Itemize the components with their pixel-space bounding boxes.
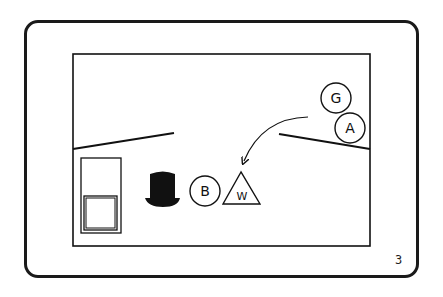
character-a: A [335, 113, 365, 143]
character-g: G [321, 83, 351, 113]
movement-arrow [244, 117, 308, 161]
top-hat-icon [145, 172, 180, 208]
page-number: 3 [395, 253, 402, 267]
character-w: W [223, 172, 260, 204]
scene-canvas: B W G A [0, 0, 443, 297]
character-g-label: G [331, 90, 342, 106]
character-b-label: B [200, 183, 210, 199]
door [81, 158, 121, 233]
character-w-label: W [237, 190, 248, 203]
left-wall-line [73, 133, 174, 149]
character-b: B [190, 176, 220, 206]
character-a-label: A [345, 120, 355, 136]
